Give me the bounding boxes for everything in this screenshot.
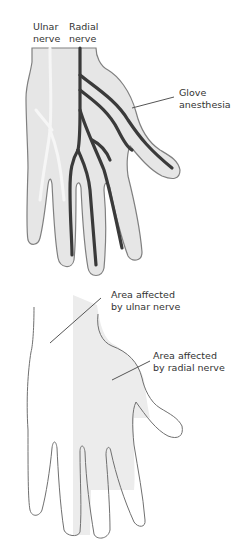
radial-area-shade [73,295,150,535]
glove-anesthesia-hand [0,0,241,553]
radial-nerve-label: Radial nerve [69,21,98,45]
ulnar-area-label: Area affected by ulnar nerve [111,289,180,313]
ulnar-nerve-label: Ulnar nerve [33,21,60,45]
glove-leader-line [132,97,174,108]
glove-anesthesia-label: Glove anesthesia [179,87,231,111]
radial-area-label: Area affected by radial nerve [153,350,225,374]
